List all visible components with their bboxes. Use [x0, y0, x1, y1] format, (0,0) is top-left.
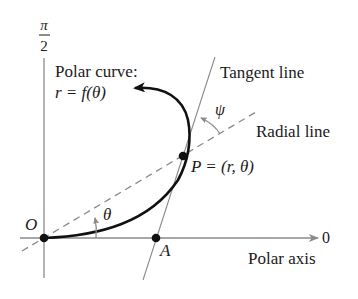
- polar-curve-label: Polar curve:: [55, 62, 138, 81]
- origin-point: [40, 234, 49, 243]
- theta-angle-arc: [95, 218, 96, 238]
- two-label: 2: [40, 38, 48, 54]
- radial-line: [22, 112, 256, 251]
- zero-label: 0: [322, 229, 330, 246]
- pi-label: π: [40, 17, 48, 33]
- radial-line-label: Radial line: [256, 122, 330, 141]
- polar-axis-label: Polar axis: [248, 249, 316, 268]
- polar-curve: [44, 88, 190, 238]
- theta-label: θ: [103, 205, 111, 224]
- tangent-line-label: Tangent line: [220, 63, 304, 82]
- origin-label: O: [25, 215, 37, 234]
- point-p-label: P = (r, θ): [190, 157, 254, 176]
- point-p: [179, 152, 188, 161]
- polar-diagram: π 2 Polar curve: r = f(θ) Tangent line ψ…: [0, 0, 358, 299]
- point-a: [152, 234, 161, 243]
- point-a-label: A: [159, 241, 171, 260]
- psi-angle-arc: [201, 118, 220, 134]
- polar-curve-equation: r = f(θ): [55, 83, 106, 102]
- psi-label: ψ: [215, 101, 226, 119]
